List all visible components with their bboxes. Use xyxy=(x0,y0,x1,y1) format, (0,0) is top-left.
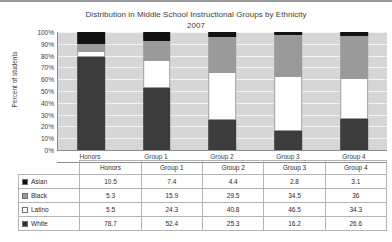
table-cell: 10.5 xyxy=(80,175,141,189)
top-divider xyxy=(0,0,392,2)
y-axis-tick-label: 80% xyxy=(18,52,54,59)
legend-swatch-icon xyxy=(22,207,28,213)
y-axis-tick-label: 100% xyxy=(18,29,54,36)
table-cell: 24.3 xyxy=(141,203,202,217)
table-row: Latino5.524.340.846.534.3 xyxy=(19,203,387,217)
chart-figure: Distribution in Middle School Instructio… xyxy=(0,0,392,242)
legend-label: Latino xyxy=(31,206,49,213)
table-body: Asian10.57.44.42.83.1Black5.315.929.534.… xyxy=(19,175,387,231)
table-column-header: Group 2 xyxy=(202,161,263,175)
table-cell: 34.3 xyxy=(325,203,386,217)
legend-label: Black xyxy=(31,192,47,199)
y-axis-tick-label: 10% xyxy=(18,135,54,142)
bar-segment-latino[interactable] xyxy=(209,72,237,120)
bar-slot xyxy=(58,32,124,150)
stacked-bar[interactable] xyxy=(340,32,368,150)
bar-segment-asian[interactable] xyxy=(77,32,105,44)
y-axis-tick-label: 50% xyxy=(18,88,54,95)
table-cell: 25.3 xyxy=(202,217,263,231)
legend-swatch-icon xyxy=(22,179,28,185)
table-corner-cell xyxy=(19,161,80,175)
stacked-bar[interactable] xyxy=(143,32,171,150)
table-cell: 7.4 xyxy=(141,175,202,189)
legend-label: Asian xyxy=(31,178,47,185)
y-axis-tick-label: 90% xyxy=(18,40,54,47)
legend-swatch-icon xyxy=(22,221,28,227)
table-cell: 5.3 xyxy=(80,189,141,203)
y-axis-tick-label: 40% xyxy=(18,99,54,106)
table-cell: 36 xyxy=(325,189,386,203)
bar-segment-latino[interactable] xyxy=(143,60,171,89)
bar-segment-white[interactable] xyxy=(340,119,368,150)
bar-segment-white[interactable] xyxy=(274,131,302,150)
bar-segment-black[interactable] xyxy=(274,35,302,76)
bar-segment-white[interactable] xyxy=(209,120,237,150)
data-table: HonorsGroup 1Group 2Group 3Group 4 Asian… xyxy=(18,160,387,231)
table-column-header: Group 1 xyxy=(141,161,202,175)
y-axis-tick-label: 0% xyxy=(18,147,54,154)
table-cell: 3.1 xyxy=(325,175,386,189)
table-column-header: Honors xyxy=(80,161,141,175)
chart-area: Percent of students 100%90%80%70%60%50%4… xyxy=(0,32,392,160)
table-cell: 26.6 xyxy=(325,217,386,231)
bar-segment-black[interactable] xyxy=(143,41,171,60)
table-cell: 2.8 xyxy=(264,175,325,189)
bar-segment-white[interactable] xyxy=(77,57,105,150)
table-cell: 4.4 xyxy=(202,175,263,189)
bar-slot xyxy=(124,32,190,150)
chart-subtitle: 2007 xyxy=(0,20,392,31)
legend-entry: White xyxy=(19,217,80,231)
legend-entry: Asian xyxy=(19,175,80,189)
table-cell: 52.4 xyxy=(141,217,202,231)
chart-title: Distribution in Middle School Instructio… xyxy=(0,9,392,20)
bar-segment-latino[interactable] xyxy=(340,78,368,118)
y-axis-tick-label: 30% xyxy=(18,111,54,118)
y-axis-tick-label: 20% xyxy=(18,123,54,130)
table-header-row: HonorsGroup 1Group 2Group 3Group 4 xyxy=(19,161,387,175)
y-axis-ticks: 100%90%80%70%60%50%40%30%20%10%0% xyxy=(18,32,54,150)
bar-series-group xyxy=(58,32,387,150)
table-column-header: Group 4 xyxy=(325,161,386,175)
y-axis-title: Percent of students xyxy=(11,25,18,135)
chart-title-block: Distribution in Middle School Instructio… xyxy=(0,9,392,31)
data-table-wrap: HonorsGroup 1Group 2Group 3Group 4 Asian… xyxy=(18,160,387,231)
table-cell: 46.5 xyxy=(264,203,325,217)
legend-entry: Black xyxy=(19,189,80,203)
bar-segment-latino[interactable] xyxy=(274,76,302,131)
stacked-bar[interactable] xyxy=(209,32,237,150)
stacked-bar[interactable] xyxy=(274,32,302,150)
table-row: Asian10.57.44.42.83.1 xyxy=(19,175,387,189)
plot-area xyxy=(57,32,387,150)
table-cell: 29.5 xyxy=(202,189,263,203)
table-row: White78.752.425.316.226.6 xyxy=(19,217,387,231)
bar-segment-black[interactable] xyxy=(209,37,237,72)
table-cell: 34.5 xyxy=(264,189,325,203)
bar-segment-black[interactable] xyxy=(340,36,368,78)
bar-segment-asian[interactable] xyxy=(143,32,171,41)
table-cell: 78.7 xyxy=(80,217,141,231)
bar-slot xyxy=(255,32,321,150)
bar-slot xyxy=(321,32,387,150)
table-row: Black5.315.929.534.536 xyxy=(19,189,387,203)
y-axis-tick-label: 60% xyxy=(18,76,54,83)
table-column-header: Group 3 xyxy=(264,161,325,175)
table-cell: 16.2 xyxy=(264,217,325,231)
legend-entry: Latino xyxy=(19,203,80,217)
legend-swatch-icon xyxy=(22,193,28,199)
bar-slot xyxy=(190,32,256,150)
table-cell: 15.9 xyxy=(141,189,202,203)
y-axis-tick-label: 70% xyxy=(18,64,54,71)
bar-segment-white[interactable] xyxy=(143,88,171,150)
stacked-bar[interactable] xyxy=(77,32,105,150)
table-cell: 40.8 xyxy=(202,203,263,217)
legend-label: White xyxy=(31,220,48,227)
table-cell: 5.5 xyxy=(80,203,141,217)
